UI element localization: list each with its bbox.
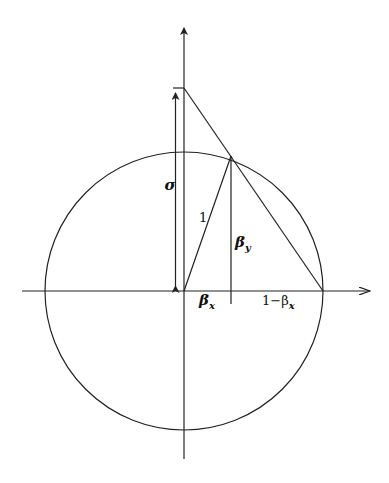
unit-circle-diagram: σ 1 βy βx 1−βx [0,0,389,483]
radius-line [184,156,231,291]
tangent-line [184,88,323,291]
one-label: 1 [199,210,207,225]
one-minus-beta-x-label: 1−βx [262,293,296,311]
sigma-label: σ [164,176,176,194]
beta-y-label: βy [234,233,252,253]
beta-x-label: βx [198,291,216,311]
